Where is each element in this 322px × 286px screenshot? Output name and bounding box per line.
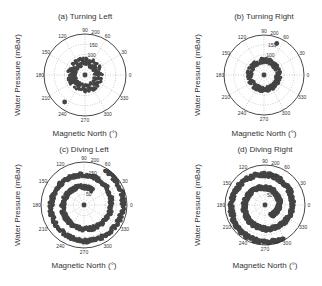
angle-tick-label: 30 bbox=[122, 178, 128, 184]
angle-tick-label: 120 bbox=[56, 161, 65, 167]
angle-tick-label: 30 bbox=[121, 49, 127, 55]
panel-title: (c) Diving Left bbox=[59, 145, 109, 154]
angle-tick-label: 120 bbox=[58, 33, 67, 39]
angle-tick-label: 60 bbox=[283, 34, 289, 40]
angle-tick-label: 120 bbox=[239, 164, 248, 170]
angle-tick-label: 0 bbox=[308, 202, 311, 208]
angle-tick-label: 330 bbox=[121, 226, 130, 232]
y-axis-label: Water Pressure (mBar) bbox=[13, 34, 22, 116]
radial-tick-label: 150 bbox=[268, 42, 277, 48]
radial-tick-label: 200 bbox=[91, 29, 100, 35]
angle-tick-label: 330 bbox=[120, 95, 129, 101]
y-axis-label: Water Pressure (mBar) bbox=[193, 164, 202, 246]
polar-panel-d: (d) Diving Right030609012015018021024027… bbox=[193, 145, 311, 270]
angle-tick-label: 210 bbox=[223, 224, 232, 230]
angle-tick-label: 30 bbox=[300, 180, 306, 186]
angle-tick-label: 60 bbox=[284, 164, 290, 170]
panel-title: (d) Diving Right bbox=[237, 145, 293, 154]
angle-tick-label: 270 bbox=[260, 116, 269, 122]
point-center bbox=[262, 73, 267, 78]
angle-tick-label: 150 bbox=[223, 180, 232, 186]
radial-tick-label: 50 bbox=[267, 192, 273, 198]
angle-tick-label: 60 bbox=[105, 33, 111, 39]
x-axis-label: Magnetic North (°) bbox=[232, 129, 297, 138]
angle-tick-label: 210 bbox=[39, 226, 48, 232]
angle-tick-label: 240 bbox=[58, 111, 67, 117]
radial-tick-label: 150 bbox=[88, 170, 97, 176]
radial-tick-label: 150 bbox=[269, 172, 278, 178]
angle-tick-label: 90 bbox=[81, 155, 87, 161]
radial-tick-label: 50 bbox=[86, 191, 92, 197]
angle-tick-label: 270 bbox=[261, 246, 270, 252]
angle-tick-label: 150 bbox=[222, 50, 231, 56]
polar-panel-c: (c) Diving Left0306090120150180210240270… bbox=[13, 145, 133, 270]
radial-tick-label: 200 bbox=[270, 30, 279, 36]
angle-tick-label: 210 bbox=[42, 95, 51, 101]
angle-tick-label: 0 bbox=[129, 72, 132, 78]
y-axis-label: Water Pressure (mBar) bbox=[193, 34, 202, 116]
angle-tick-label: 300 bbox=[103, 111, 112, 117]
angle-tick-label: 180 bbox=[36, 72, 45, 78]
angle-tick-label: 60 bbox=[105, 161, 111, 167]
point-center bbox=[83, 73, 88, 78]
angle-tick-label: 150 bbox=[39, 178, 48, 184]
angle-tick-label: 240 bbox=[238, 110, 247, 116]
angle-tick-label: 180 bbox=[217, 202, 226, 208]
radial-tick-label: 100 bbox=[266, 52, 275, 58]
x-axis-label: Magnetic North (°) bbox=[233, 261, 298, 270]
angle-tick-label: 30 bbox=[299, 50, 305, 56]
angle-tick-label: 270 bbox=[81, 117, 90, 123]
angle-tick-label: 150 bbox=[42, 49, 51, 55]
panel-title: (a) Turning Left bbox=[58, 12, 113, 21]
angle-tick-label: 300 bbox=[283, 240, 292, 246]
angle-tick-label: 180 bbox=[216, 72, 225, 78]
angle-tick-label: 180 bbox=[33, 202, 42, 208]
polar-figure: (a) Turning Left030609012015018021024027… bbox=[0, 0, 322, 286]
radial-tick-label: 200 bbox=[91, 157, 100, 163]
y-axis-label: Water Pressure (mBar) bbox=[13, 164, 22, 246]
point-center bbox=[82, 203, 87, 208]
angle-tick-label: 0 bbox=[307, 72, 310, 78]
polar-panel-b: (b) Turning Right03060901201501802102402… bbox=[193, 12, 310, 138]
angle-tick-label: 270 bbox=[80, 249, 89, 255]
radial-tick-label: 100 bbox=[87, 52, 96, 58]
polar-panel-a: (a) Turning Left030609012015018021024027… bbox=[13, 12, 132, 138]
angle-tick-label: 90 bbox=[82, 27, 88, 33]
x-axis-label: Magnetic North (°) bbox=[52, 261, 117, 270]
x-axis-label: Magnetic North (°) bbox=[53, 129, 118, 138]
angle-tick-label: 90 bbox=[261, 28, 267, 34]
angle-tick-label: 210 bbox=[222, 94, 231, 100]
angle-tick-label: 0 bbox=[130, 202, 133, 208]
angle-tick-label: 120 bbox=[238, 34, 247, 40]
radial-tick-label: 200 bbox=[271, 160, 280, 166]
radial-tick-label: 150 bbox=[89, 42, 98, 48]
angle-tick-label: 330 bbox=[298, 94, 307, 100]
angle-tick-label: 300 bbox=[103, 243, 112, 249]
angle-tick-label: 240 bbox=[56, 243, 65, 249]
angle-tick-label: 300 bbox=[282, 110, 291, 116]
point-outlier bbox=[62, 100, 67, 105]
angle-tick-label: 330 bbox=[299, 224, 308, 230]
angle-tick-label: 90 bbox=[262, 158, 268, 164]
angle-tick-label: 240 bbox=[239, 240, 248, 246]
panel-title: (b) Turning Right bbox=[234, 12, 294, 21]
point-center bbox=[263, 203, 268, 208]
